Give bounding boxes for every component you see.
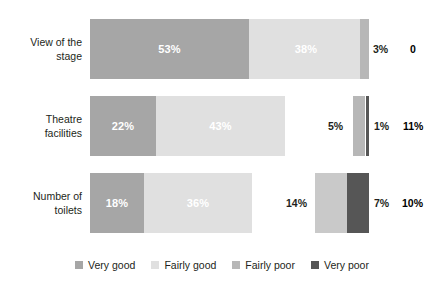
segment-very-poor[interactable]	[366, 96, 369, 156]
legend-swatch-icon	[151, 261, 159, 269]
legend-item-fairly-poor[interactable]: Fairly poor	[232, 259, 295, 271]
segment-value-label: 18%	[106, 197, 129, 209]
legend-item-fairly-good[interactable]: Fairly good	[151, 259, 216, 271]
legend-item-very-good[interactable]: Very good	[75, 259, 135, 271]
segment-value-label: 43%	[209, 120, 232, 132]
segment-value-label: 38%	[295, 43, 318, 55]
segment-value-label-very-poor: 1%	[374, 120, 389, 132]
legend-label: Very poor	[324, 259, 369, 271]
legend-swatch-icon	[232, 261, 240, 269]
segment-fairly-good[interactable]: 43%	[156, 96, 285, 156]
segment-value-label-very-poor: 7%	[374, 197, 389, 209]
chart-legend: Very good Fairly good Fairly poor Very p…	[0, 255, 444, 275]
segment-very-good[interactable]: 22%	[90, 96, 156, 156]
row-remainder-label: 11%	[403, 120, 423, 132]
segment-fairly-good[interactable]: 38%	[249, 19, 363, 79]
row-plot: 53% 38% 3% 0	[90, 19, 444, 79]
legend-item-very-poor[interactable]: Very poor	[311, 259, 369, 271]
chart-row: View of the stage 53% 38% 3% 0	[0, 19, 444, 79]
segment-very-good[interactable]: 53%	[90, 19, 249, 79]
row-plot: 22% 43% 5% 1% 11%	[90, 96, 444, 156]
chart-row: Theatre facilities 22% 43% 5% 1% 11%	[0, 96, 444, 156]
legend-label: Fairly good	[164, 259, 216, 271]
segment-value-label-fairly-poor: 5%	[328, 120, 343, 132]
segment-fairly-poor[interactable]	[360, 19, 369, 79]
segment-value-label: 53%	[158, 43, 181, 55]
segment-very-poor[interactable]	[347, 173, 369, 233]
segment-fairly-poor[interactable]	[353, 96, 365, 156]
legend-label: Fairly poor	[245, 259, 295, 271]
legend-label: Very good	[88, 259, 135, 271]
segment-fairly-good[interactable]: 36%	[144, 173, 252, 233]
segment-value-label: 22%	[112, 120, 135, 132]
row-label-number-of-toilets: Number of toilets	[6, 173, 82, 233]
legend-swatch-icon	[311, 261, 319, 269]
segment-very-good[interactable]: 18%	[90, 173, 144, 233]
row-remainder-label: 0	[410, 43, 416, 55]
segment-value-label-fairly-poor: 3%	[373, 43, 388, 55]
legend-swatch-icon	[75, 261, 83, 269]
stacked-bar-chart: View of the stage 53% 38% 3% 0 Theatre f…	[0, 0, 444, 292]
segment-fairly-poor[interactable]	[315, 173, 347, 233]
chart-row: Number of toilets 18% 36% 14% 7% 10%	[0, 173, 444, 233]
row-remainder-label: 10%	[402, 197, 423, 209]
row-label-view-of-the-stage: View of the stage	[6, 19, 82, 79]
row-label-theatre-facilities: Theatre facilities	[6, 96, 82, 156]
row-plot: 18% 36% 14% 7% 10%	[90, 173, 444, 233]
segment-value-label: 36%	[187, 197, 210, 209]
segment-value-label-fairly-poor: 14%	[286, 197, 307, 209]
